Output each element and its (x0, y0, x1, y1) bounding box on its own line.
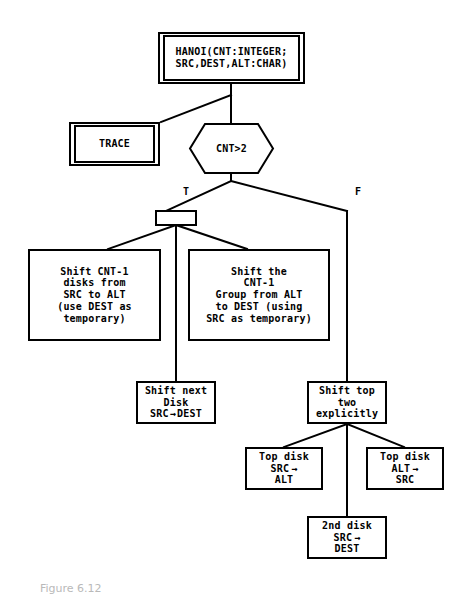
node-top-disk-alt-src[interactable]: Top disk ALT → SRC (366, 447, 444, 490)
node-shift-cnt-minus-1[interactable]: Shift CNT-1 disks from SRC to ALT (use D… (28, 249, 161, 341)
node-second-disk-from-row: SRC → (334, 532, 361, 544)
node-shift-next-disk[interactable]: Shift next Disk SRC → DEST (136, 381, 216, 424)
branch-label-true: T (183, 186, 189, 197)
node-top-disk-alt-src-to: SRC (396, 474, 415, 486)
branch-label-false: F (355, 186, 361, 197)
node-top-disk-src-alt[interactable]: Top disk SRC → ALT (245, 447, 323, 490)
node-second-disk-to: DEST (335, 543, 360, 555)
second-disk-from: SRC (334, 532, 353, 544)
node-shift-top-two[interactable]: Shift top two explicitly (307, 381, 387, 424)
node-trace-label: TRACE (99, 138, 130, 150)
node-second-disk-src-dest[interactable]: 2nd disk SRC → DEST (307, 516, 387, 559)
top-disk-src-alt-from: SRC (271, 463, 290, 475)
node-shift-next-disk-line2: Disk (164, 397, 189, 409)
node-decision-label: CNT>2 (216, 143, 247, 155)
arrow-icon: → (354, 532, 360, 544)
diagram-canvas: HANOI(CNT:INTEGER; SRC,DEST,ALT:CHAR) TR… (0, 0, 465, 603)
node-shift-top-two-label: Shift top two explicitly (316, 385, 378, 420)
node-shift-next-disk-transfer: SRC → DEST (150, 408, 202, 420)
node-shift-the-group[interactable]: Shift the CNT-1 Group from ALT to DEST (… (188, 249, 330, 341)
top-disk-alt-src-from: ALT (392, 463, 411, 475)
node-shift-next-disk-line1: Shift next (145, 385, 207, 397)
arrow-icon: → (170, 408, 176, 420)
arrow-icon: → (291, 463, 297, 475)
figure-caption: Figure 6.12 (40, 582, 102, 595)
node-hanoi-root[interactable]: HANOI(CNT:INTEGER; SRC,DEST,ALT:CHAR) (158, 32, 305, 84)
node-top-disk-src-alt-title: Top disk (259, 451, 309, 463)
node-hanoi-root-label: HANOI(CNT:INTEGER; SRC,DEST,ALT:CHAR) (176, 46, 288, 70)
node-top-disk-alt-src-title: Top disk (380, 451, 430, 463)
arrow-icon: → (412, 463, 418, 475)
node-top-disk-src-alt-from-row: SRC → (271, 463, 298, 475)
node-top-disk-src-alt-to: ALT (275, 474, 294, 486)
shift-next-disk-from: SRC (150, 408, 169, 420)
node-shift-the-group-label: Shift the CNT-1 Group from ALT to DEST (… (206, 266, 312, 325)
node-top-disk-alt-src-from-row: ALT → (392, 463, 419, 475)
node-trace[interactable]: TRACE (69, 122, 160, 166)
shift-next-disk-to: DEST (177, 408, 202, 420)
node-junction[interactable] (155, 210, 197, 226)
node-second-disk-title: 2nd disk (322, 520, 372, 532)
node-decision-cnt-gt-2[interactable]: CNT>2 (188, 122, 275, 175)
node-shift-cnt-minus-1-label: Shift CNT-1 disks from SRC to ALT (use D… (57, 266, 132, 325)
